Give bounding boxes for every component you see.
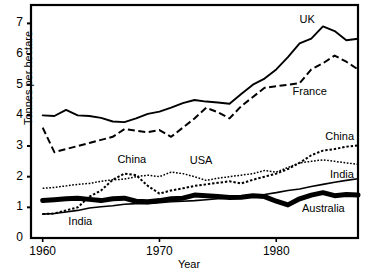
y-tick-label: 2: [5, 169, 23, 183]
series-label-usa: USA: [190, 154, 213, 166]
y-tick-label: 4: [5, 107, 23, 121]
x-tick-label: 1970: [139, 244, 179, 258]
y-tick-label: 0: [5, 230, 23, 244]
series-label-china: China: [325, 130, 354, 142]
series-label-france: France: [293, 85, 327, 97]
y-tick-label: 1: [5, 199, 23, 213]
series-label-india: India: [330, 168, 354, 180]
cereal-yield-chart: Tonnes per hectare Year 01234567 1960197…: [0, 0, 378, 278]
x-tick-label: 1960: [23, 244, 63, 258]
x-tick-label: 1980: [256, 244, 296, 258]
y-tick-label: 6: [5, 46, 23, 60]
x-axis-title: Year: [0, 258, 378, 270]
y-tick-label: 5: [5, 77, 23, 91]
series-label-australia: Australia: [302, 202, 345, 214]
y-axis-title: Tonnes per hectare: [22, 0, 34, 158]
y-tick-label: 7: [5, 15, 23, 29]
series-label-uk: UK: [300, 13, 315, 25]
y-tick-label: 3: [5, 138, 23, 152]
series-label-india: India: [68, 215, 92, 227]
series-label-china: China: [117, 153, 146, 165]
chart-plot-area: [0, 0, 378, 278]
